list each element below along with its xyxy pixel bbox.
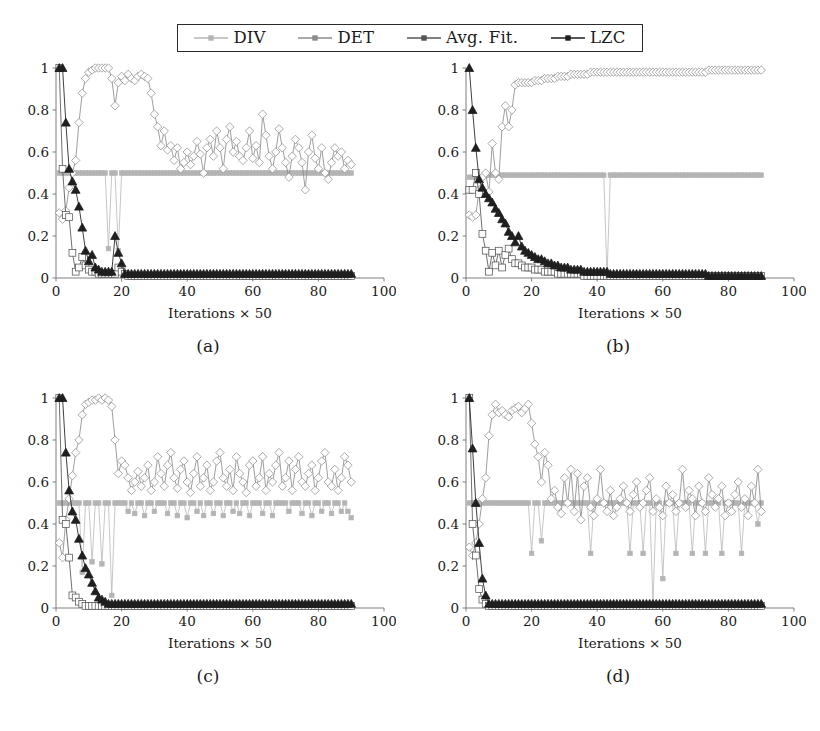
data-point-marker	[317, 457, 325, 465]
data-point-marker	[117, 259, 126, 267]
data-point-marker	[216, 448, 224, 456]
series-line	[59, 173, 351, 251]
data-point-marker	[109, 593, 114, 598]
data-point-marker	[601, 173, 606, 178]
data-point-marker	[668, 490, 676, 498]
data-point-marker	[529, 551, 534, 556]
y-tick-label: 0	[40, 270, 49, 286]
data-point-marker	[170, 156, 178, 164]
data-point-marker	[588, 551, 593, 556]
data-point-marker	[68, 472, 76, 480]
data-point-marker	[573, 469, 581, 477]
data-point-marker	[278, 482, 286, 490]
data-point-marker	[641, 551, 646, 556]
plot-area: 00.20.40.60.81020406080100Iterations × 5…	[424, 388, 806, 660]
data-point-marker	[606, 486, 614, 494]
data-point-marker	[160, 482, 168, 490]
data-point-marker	[724, 499, 732, 507]
data-point-marker	[536, 501, 541, 506]
data-point-marker	[727, 507, 735, 515]
data-point-marker	[272, 461, 280, 469]
y-tick-label: 0.6	[28, 144, 49, 160]
legend-label: DET	[335, 30, 374, 47]
data-point-marker	[295, 144, 303, 152]
data-point-marker	[88, 578, 97, 586]
data-point-marker	[300, 511, 305, 516]
x-tick-label: 40	[179, 613, 196, 629]
data-point-marker	[71, 156, 79, 164]
data-point-marker	[349, 171, 354, 176]
data-point-marker	[675, 499, 683, 507]
data-point-marker	[504, 123, 512, 131]
data-point-marker	[185, 515, 190, 520]
x-tick-label: 80	[720, 283, 737, 299]
y-tick-label: 1	[40, 390, 49, 406]
data-point-marker	[304, 148, 312, 156]
data-point-marker	[108, 74, 116, 82]
legend-entry-det: DET	[296, 30, 376, 47]
square-small-icon	[194, 31, 228, 45]
y-tick-label: 0.8	[28, 102, 49, 118]
data-point-marker	[567, 465, 575, 473]
y-tick-label: 0.4	[28, 516, 49, 532]
data-point-marker	[144, 461, 152, 469]
data-point-marker	[127, 486, 135, 494]
x-tick-label: 100	[781, 613, 806, 629]
data-point-marker	[126, 509, 131, 514]
data-point-marker	[165, 511, 170, 516]
data-point-marker	[298, 158, 306, 166]
data-point-marker	[69, 249, 76, 256]
x-tick-label: 60	[654, 283, 671, 299]
data-point-marker	[526, 501, 531, 506]
data-point-marker	[662, 482, 670, 490]
y-tick-label: 0.8	[438, 432, 459, 448]
data-point-marker	[327, 158, 335, 166]
data-point-marker	[482, 247, 489, 254]
data-point-marker	[172, 501, 177, 506]
data-point-marker	[756, 522, 761, 527]
data-point-marker	[349, 515, 354, 520]
data-point-marker	[106, 246, 111, 251]
legend-entry-lzc: LZC	[549, 30, 628, 47]
data-point-marker	[265, 469, 273, 477]
data-point-marker	[247, 513, 252, 518]
data-point-marker	[734, 478, 742, 486]
data-point-marker	[147, 89, 155, 97]
data-point-marker	[731, 490, 739, 498]
data-point-marker	[308, 131, 316, 139]
data-point-marker	[106, 501, 111, 506]
data-point-marker	[329, 511, 334, 516]
data-point-marker	[311, 154, 319, 162]
data-point-marker	[316, 501, 321, 506]
data-point-marker	[131, 478, 139, 486]
x-tick-label: 60	[244, 613, 261, 629]
data-point-marker	[691, 511, 699, 519]
data-point-marker	[347, 478, 355, 486]
data-point-marker	[469, 521, 476, 528]
data-point-marker	[472, 552, 479, 559]
data-point-marker	[583, 474, 591, 482]
data-point-marker	[288, 486, 296, 494]
data-point-marker	[268, 478, 276, 486]
data-point-marker	[100, 562, 105, 567]
data-point-marker	[301, 186, 309, 194]
x-tick-label: 80	[720, 613, 737, 629]
data-point-marker	[267, 501, 272, 506]
data-point-marker	[180, 457, 188, 465]
data-point-marker	[66, 554, 73, 561]
data-point-marker	[134, 467, 142, 475]
y-tick-label: 0.4	[28, 186, 49, 202]
legend-label: LZC	[588, 30, 626, 47]
data-point-marker	[331, 144, 339, 152]
data-point-marker	[344, 461, 352, 469]
data-point-marker	[153, 123, 161, 131]
data-point-marker	[747, 482, 755, 490]
data-point-marker	[71, 515, 80, 523]
data-point-marker	[609, 511, 617, 519]
series-det	[465, 66, 765, 221]
data-point-marker	[206, 135, 214, 143]
data-point-marker	[150, 478, 158, 486]
data-point-marker	[488, 139, 496, 147]
y-tick-label: 0	[450, 270, 459, 286]
data-point-marker	[209, 152, 217, 160]
